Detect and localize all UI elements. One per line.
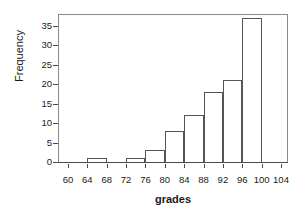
y-tick-mark bbox=[53, 65, 58, 66]
x-tick-mark bbox=[242, 164, 243, 168]
y-tick-label: 5 bbox=[30, 137, 52, 148]
x-tick-mark bbox=[262, 164, 263, 168]
y-tick-mark bbox=[53, 45, 58, 46]
x-tick-mark bbox=[68, 164, 69, 168]
histogram-bar bbox=[145, 150, 164, 162]
x-tick-mark bbox=[281, 164, 282, 168]
x-tick-label: 104 bbox=[270, 174, 292, 185]
histogram-chart: Frequency grades 05101520253035 60646872… bbox=[0, 0, 306, 216]
x-tick-mark bbox=[223, 164, 224, 168]
y-tick-mark bbox=[53, 123, 58, 124]
y-tick-label: 25 bbox=[30, 59, 52, 70]
x-tick-mark bbox=[204, 164, 205, 168]
x-axis-baseline bbox=[58, 162, 288, 163]
y-tick-mark bbox=[53, 104, 58, 105]
y-tick-label: 30 bbox=[30, 39, 52, 50]
histogram-bar bbox=[242, 18, 261, 162]
x-tick-mark bbox=[107, 164, 108, 168]
x-tick-mark bbox=[184, 164, 185, 168]
y-tick-label: 15 bbox=[30, 98, 52, 109]
x-tick-mark bbox=[165, 164, 166, 168]
histogram-bar bbox=[223, 80, 242, 162]
histogram-bar bbox=[165, 131, 184, 162]
y-tick-mark bbox=[53, 26, 58, 27]
y-tick-label: 20 bbox=[30, 78, 52, 89]
y-tick-mark bbox=[53, 84, 58, 85]
x-tick-mark bbox=[126, 164, 127, 168]
x-axis-label: grades bbox=[58, 193, 288, 205]
x-tick-mark bbox=[87, 164, 88, 168]
histogram-bar bbox=[204, 92, 223, 162]
y-axis-label: Frequency bbox=[13, 1, 25, 111]
histogram-bar bbox=[184, 115, 203, 162]
y-tick-label: 0 bbox=[30, 156, 52, 167]
y-tick-label: 10 bbox=[30, 117, 52, 128]
x-tick-mark bbox=[145, 164, 146, 168]
y-tick-label: 35 bbox=[30, 20, 52, 31]
y-tick-mark bbox=[53, 143, 58, 144]
